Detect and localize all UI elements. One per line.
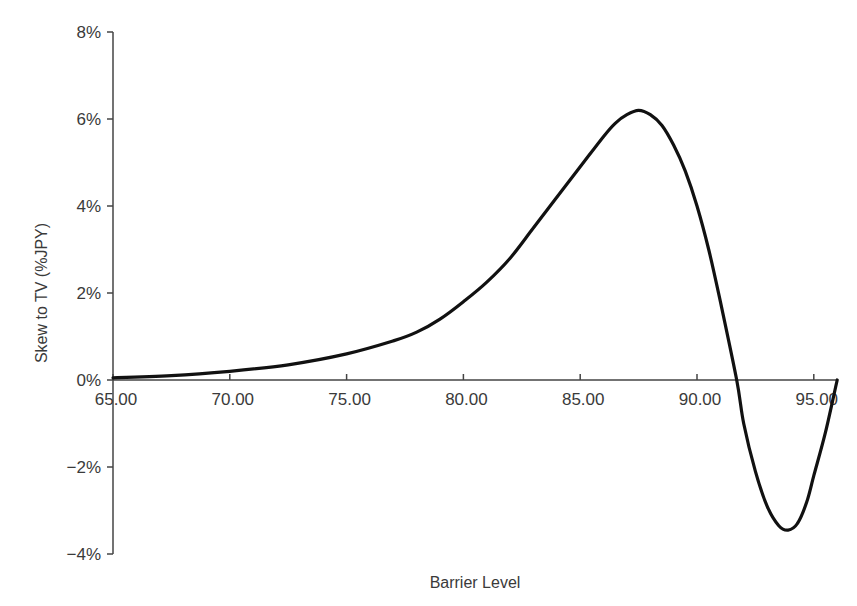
y-axis-title: Skew to TV (%JPY): [33, 223, 50, 363]
y-tick-label: 4%: [76, 197, 101, 216]
line-chart: 8%6%4%2%0%−2%−4% 65.0070.0075.0080.0085.…: [0, 0, 857, 606]
x-tick-label: 85.00: [562, 390, 605, 409]
x-tick-label: 70.00: [212, 390, 255, 409]
y-tick-label: 8%: [76, 23, 101, 42]
x-tick-label: 80.00: [445, 390, 488, 409]
x-tick-label: 90.00: [679, 390, 722, 409]
y-tick-label: 6%: [76, 110, 101, 129]
y-tick-label: −2%: [67, 458, 102, 477]
y-axis: 8%6%4%2%0%−2%−4%: [67, 23, 114, 564]
x-axis-title: Barrier Level: [430, 574, 521, 591]
x-tick-label: 75.00: [328, 390, 371, 409]
y-tick-label: 0%: [76, 371, 101, 390]
y-tick-label: 2%: [76, 284, 101, 303]
y-tick-label: −4%: [67, 545, 102, 564]
x-axis: 65.0070.0075.0080.0085.0090.0095.00: [95, 374, 838, 409]
x-tick-label: 65.00: [95, 390, 138, 409]
series-line: [113, 110, 837, 530]
data-series: [113, 110, 837, 530]
